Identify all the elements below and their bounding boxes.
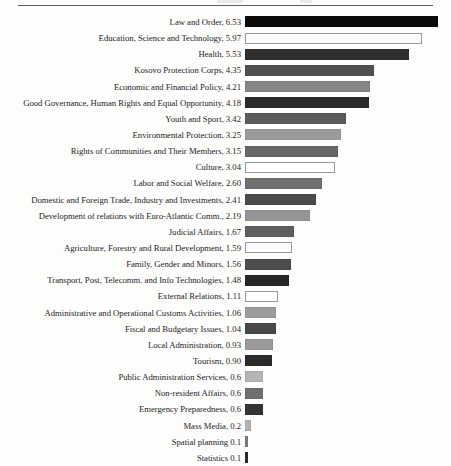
bar-category-label: Public Administration Services, 0.6 xyxy=(0,372,245,382)
bar-category-label: Economic and Financial Policy, 4.21 xyxy=(0,82,245,92)
bar-track xyxy=(245,288,451,304)
bar-track xyxy=(245,95,451,111)
bar-category-label: Family, Gender and Minors, 1.56 xyxy=(0,259,245,269)
bar xyxy=(245,210,310,221)
bar-row: Culture, 3.04 xyxy=(0,159,451,175)
bar-track xyxy=(245,418,451,434)
bar xyxy=(245,65,374,76)
bar-row: Labor and Social Welfare, 2.60 xyxy=(0,175,451,191)
bar xyxy=(245,178,322,189)
bar xyxy=(245,420,251,431)
bar-track xyxy=(245,369,451,385)
bar xyxy=(245,323,276,334)
bar-row: Environmental Protection, 3.25 xyxy=(0,127,451,143)
bar-track xyxy=(245,175,451,191)
bar-category-label: Education, Science and Technology, 5.97 xyxy=(0,33,245,43)
bar-row: Non-resident Affairs, 0.6 xyxy=(0,385,451,401)
bar-track xyxy=(245,79,451,95)
bar xyxy=(245,16,438,27)
bar xyxy=(245,339,273,350)
bar-track xyxy=(245,224,451,240)
bar-track xyxy=(245,305,451,321)
bar-category-label: Culture, 3.04 xyxy=(0,162,245,172)
bar-track xyxy=(245,321,451,337)
bar-track xyxy=(245,14,451,30)
bar xyxy=(245,129,341,140)
bar-track xyxy=(245,272,451,288)
bar xyxy=(245,291,278,302)
bar-track xyxy=(245,450,451,466)
bar-category-label: Health, 5.53 xyxy=(0,49,245,59)
bar-row: Mass Media, 0.2 xyxy=(0,418,451,434)
bar xyxy=(245,33,422,44)
bar-row: External Relations, 1.11 xyxy=(0,288,451,304)
bar-category-label: Kosovo Protection Corps, 4.35 xyxy=(0,65,245,75)
bar-track xyxy=(245,208,451,224)
bar-track xyxy=(245,353,451,369)
bar-track xyxy=(245,401,451,417)
bar xyxy=(245,388,263,399)
bar xyxy=(245,452,248,463)
bar-category-label: Environmental Protection, 3.25 xyxy=(0,130,245,140)
bar-row: Law and Order, 6.53 xyxy=(0,14,451,30)
bar-category-label: Good Governance, Human Rights and Equal … xyxy=(0,98,245,108)
bar xyxy=(245,194,316,205)
bar-category-label: Law and Order, 6.53 xyxy=(0,17,245,27)
bar-row: Health, 5.53 xyxy=(0,46,451,62)
bar xyxy=(245,355,272,366)
bar xyxy=(245,307,276,318)
bar-track xyxy=(245,111,451,127)
bar xyxy=(245,81,370,92)
artifact-mark xyxy=(217,0,243,3)
bar-track xyxy=(245,127,451,143)
bar-row: Emergency Preparedness, 0.6 xyxy=(0,401,451,417)
bar xyxy=(245,259,291,270)
bar-row: Fiscal and Budgetary Issues, 1.04 xyxy=(0,321,451,337)
bar-row: Family, Gender and Minors, 1.56 xyxy=(0,256,451,272)
bar xyxy=(245,146,338,157)
bar-row: Statistics 0.1 xyxy=(0,450,451,466)
bar-row: Youth and Sport, 3.42 xyxy=(0,111,451,127)
bar-category-label: Tourism, 0.90 xyxy=(0,356,245,366)
bar-row: Education, Science and Technology, 5.97 xyxy=(0,30,451,46)
bar-category-label: Spatial planning 0.1 xyxy=(0,437,245,447)
bar-row: Rights of Communities and Their Members,… xyxy=(0,143,451,159)
bar-track xyxy=(245,434,451,450)
bar-category-label: Development of relations with Euro-Atlan… xyxy=(0,211,245,221)
bar-track xyxy=(245,385,451,401)
bar-row: Transport, Post, Telecomm. and Info Tech… xyxy=(0,272,451,288)
bar-track xyxy=(245,240,451,256)
bar xyxy=(245,404,263,415)
bar-category-label: Youth and Sport, 3.42 xyxy=(0,114,245,124)
bar xyxy=(245,275,289,286)
bar-row: Tourism, 0.90 xyxy=(0,353,451,369)
bar xyxy=(245,113,346,124)
bar-track xyxy=(245,143,451,159)
bar-category-label: Judicial Affairs, 1.67 xyxy=(0,227,245,237)
bar xyxy=(245,97,369,108)
bar xyxy=(245,242,292,253)
bar-category-label: Local Administration, 0.93 xyxy=(0,340,245,350)
bar-category-label: Administrative and Operational Customs A… xyxy=(0,308,245,318)
bar-category-label: Transport, Post, Telecomm. and Info Tech… xyxy=(0,275,245,285)
bar-track xyxy=(245,46,451,62)
chart-page: Law and Order, 6.53Education, Science an… xyxy=(0,0,451,466)
bar-row: Administrative and Operational Customs A… xyxy=(0,305,451,321)
bar-track xyxy=(245,30,451,46)
bar-category-label: Non-resident Affairs, 0.6 xyxy=(0,388,245,398)
bar-row: Domestic and Foreign Trade, Industry and… xyxy=(0,192,451,208)
bar xyxy=(245,371,263,382)
bar-row: Agriculture, Forestry and Rural Developm… xyxy=(0,240,451,256)
bar-row: Kosovo Protection Corps, 4.35 xyxy=(0,62,451,78)
bar xyxy=(245,49,409,60)
bar-row: Good Governance, Human Rights and Equal … xyxy=(0,95,451,111)
bar-category-label: Emergency Preparedness, 0.6 xyxy=(0,404,245,414)
bar-row: Economic and Financial Policy, 4.21 xyxy=(0,79,451,95)
bar-track xyxy=(245,192,451,208)
bar-category-label: Fiscal and Budgetary Issues, 1.04 xyxy=(0,324,245,334)
bar xyxy=(245,162,335,173)
bar-category-label: Statistics 0.1 xyxy=(0,453,245,463)
bar-row: Spatial planning 0.1 xyxy=(0,434,451,450)
bar-category-label: Mass Media, 0.2 xyxy=(0,421,245,431)
artifact-mark xyxy=(300,0,312,3)
